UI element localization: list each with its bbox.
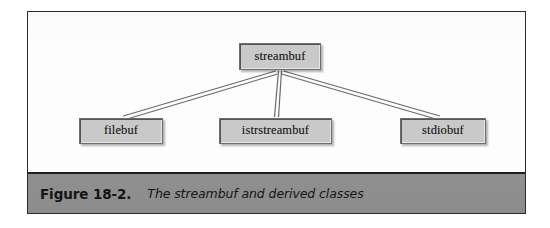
figure-root: streambuf filebuf istrstreambuf stdiobuf… [0, 0, 550, 228]
class-box-istrstreambuf: istrstreambuf [219, 118, 332, 144]
figure-caption-text: The streambuf and derived classes [147, 186, 363, 201]
connector-layer [28, 12, 525, 172]
class-box-label: stdiobuf [422, 124, 464, 138]
class-box-streambuf: streambuf [239, 43, 321, 70]
diagram-area: streambuf filebuf istrstreambuf stdiobuf [28, 12, 525, 172]
class-box-label: filebuf [104, 124, 138, 138]
class-box-label: streambuf [255, 50, 306, 64]
connector-streambuf-filebuf [123, 71, 277, 119]
class-box-filebuf: filebuf [79, 118, 163, 144]
figure-frame: streambuf filebuf istrstreambuf stdiobuf… [27, 11, 526, 214]
figure-number: Figure 18-2. [40, 186, 131, 202]
class-box-label: istrstreambuf [242, 124, 309, 138]
figure-caption-bar: Figure 18-2. The streambuf and derived c… [28, 172, 525, 213]
connector-streambuf-istrstreambuf [274, 71, 281, 117]
class-box-stdiobuf: stdiobuf [400, 118, 486, 144]
connector-streambuf-stdiobuf [282, 71, 440, 119]
